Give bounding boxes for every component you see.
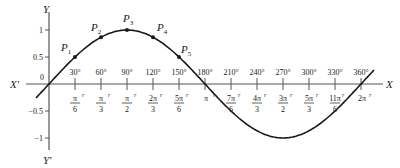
curve-point-marker	[73, 55, 77, 59]
curve-point-label: P5	[180, 43, 192, 58]
x-tick-deg-label: 240°	[249, 68, 264, 77]
radian-superscript: r	[369, 92, 372, 98]
x-axis-label: X	[385, 78, 394, 90]
curve-point-label: P1	[60, 41, 72, 56]
x-tick-deg-label: 210°	[223, 68, 238, 77]
radian-superscript: r	[108, 92, 111, 98]
radian-superscript: r	[134, 92, 137, 98]
x-tick-deg-label: 60°	[95, 68, 106, 77]
curve-point-marker	[151, 35, 155, 39]
radian-superscript: r	[160, 92, 163, 98]
y-tick-label: −0.5	[28, 107, 43, 116]
x-tick-rad-numerator: π	[73, 94, 77, 103]
x-tick-rad-denominator: 2	[281, 105, 285, 114]
radian-superscript: r	[342, 92, 345, 98]
x-tick-rad-denominator: 3	[151, 105, 155, 114]
x-tick-rad-numerator: 2π	[149, 94, 157, 103]
x-tick-rad-numerator: π	[99, 94, 103, 103]
x-tick-deg-label: 150°	[171, 68, 186, 77]
x-tick-deg-label: 180°	[197, 68, 212, 77]
x-tick-deg-label: 30°	[69, 68, 80, 77]
y-tick-label: 0.5	[33, 53, 43, 62]
x-tick-rad-numerator: 3π	[279, 94, 287, 103]
curve-point-label: P3	[122, 12, 134, 27]
x-tick-deg-label: 270°	[275, 68, 290, 77]
x-tick-rad-label: 2π	[358, 94, 366, 103]
x-tick-deg-label: 120°	[145, 68, 160, 77]
y-neg-axis-label: Y'	[43, 154, 52, 166]
x-neg-axis-label: X'	[9, 78, 20, 90]
y-tick-label: −1	[34, 134, 43, 143]
radian-superscript: r	[238, 92, 241, 98]
x-tick-rad-numerator: π	[125, 94, 129, 103]
origin-label: 0	[40, 73, 44, 82]
x-tick-rad-numerator: 7π	[227, 94, 235, 103]
x-tick-rad-numerator: 11π	[329, 94, 341, 103]
radian-superscript: r	[316, 92, 319, 98]
x-tick-rad-numerator: 5π	[175, 94, 183, 103]
radian-superscript: r	[186, 92, 189, 98]
radian-superscript: r	[82, 92, 85, 98]
curve-point-label: P2	[90, 21, 102, 36]
y-tick-label: 1	[39, 26, 43, 35]
x-tick-rad-denominator: 3	[255, 105, 259, 114]
curve-point-marker	[125, 28, 129, 32]
radian-superscript: r	[264, 92, 267, 98]
radian-superscript: r	[290, 92, 293, 98]
x-tick-rad-denominator: 3	[307, 105, 311, 114]
x-tick-rad-numerator: 4π	[253, 94, 261, 103]
x-tick-rad-label: π	[204, 94, 208, 103]
x-tick-rad-denominator: 6	[73, 105, 77, 114]
sine-diagram: X X' Y Y' 0 10.5−0.5−1 30°πr660°πr390°πr…	[0, 0, 400, 168]
x-tick-deg-label: 90°	[121, 68, 132, 77]
x-tick-deg-label: 330°	[327, 68, 342, 77]
curve-point-marker	[177, 55, 181, 59]
curve-point-label: P4	[156, 21, 168, 36]
x-tick-rad-denominator: 3	[99, 105, 103, 114]
x-tick-deg-label: 360°	[353, 68, 368, 77]
x-tick-rad-denominator: 2	[125, 105, 129, 114]
y-axis-label: Y	[43, 3, 51, 15]
x-ticks: 30°πr660°πr390°πr2120°2πr3150°5πr6180°πr…	[69, 68, 372, 114]
x-tick-rad-denominator: 6	[177, 105, 181, 114]
x-tick-rad-numerator: 5π	[305, 94, 313, 103]
x-tick-deg-label: 300°	[301, 68, 316, 77]
